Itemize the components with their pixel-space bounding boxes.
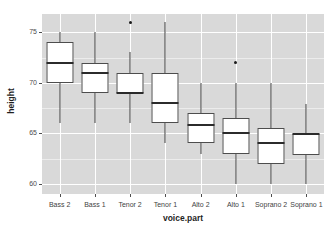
median-line — [222, 132, 249, 134]
x-tick-label: Alto 2 — [192, 200, 210, 209]
x-tick-label: Alto 1 — [227, 200, 245, 209]
x-tick-mark — [130, 194, 131, 197]
x-tick-mark — [306, 194, 307, 197]
x-tick-label: Soprano 1 — [290, 200, 322, 209]
x-tick-label: Bass 1 — [84, 200, 105, 209]
median-line — [46, 62, 73, 64]
x-tick-mark — [271, 194, 272, 197]
box-rect — [152, 73, 179, 124]
box-rect — [258, 128, 285, 163]
y-axis-title: height — [6, 76, 16, 126]
box-rect — [117, 73, 144, 93]
x-tick-mark — [60, 194, 61, 197]
box-rect — [187, 113, 214, 143]
x-tick-mark — [95, 194, 96, 197]
x-tick-label: Soprano 2 — [255, 200, 287, 209]
y-tick-label: 60 — [29, 180, 37, 188]
median-line — [152, 102, 179, 104]
x-tick-label: Tenor 2 — [118, 200, 141, 209]
boxplot-box — [183, 14, 218, 194]
y-tick-label: 65 — [29, 129, 37, 137]
box-rect — [81, 63, 108, 93]
median-line — [81, 72, 108, 74]
x-tick-label: Bass 2 — [49, 200, 70, 209]
outlier-point — [234, 61, 237, 64]
y-tick-mark — [39, 32, 42, 33]
x-axis-title: voice.part — [42, 213, 324, 223]
median-line — [187, 124, 214, 126]
y-tick-mark — [39, 184, 42, 185]
box-rect — [293, 134, 320, 155]
outlier-point — [129, 21, 132, 24]
median-line — [293, 133, 320, 135]
boxplot-box — [148, 14, 183, 194]
y-tick-mark — [39, 133, 42, 134]
median-line — [117, 92, 144, 94]
boxplot-box — [289, 14, 324, 194]
y-tick-mark — [39, 83, 42, 84]
x-tick-mark — [236, 194, 237, 197]
x-tick-mark — [165, 194, 166, 197]
plot-panel — [42, 14, 324, 194]
x-tick-label: Tenor 1 — [154, 200, 177, 209]
boxplot-figure: 60657075 Bass 2Bass 1Tenor 2Tenor 1Alto … — [0, 0, 331, 235]
boxplot-box — [77, 14, 112, 194]
x-tick-mark — [201, 194, 202, 197]
boxplot-box — [113, 14, 148, 194]
box-rect — [222, 118, 249, 153]
median-line — [258, 142, 285, 144]
y-tick-label: 70 — [29, 79, 37, 87]
boxplot-box — [218, 14, 253, 194]
boxplot-box — [254, 14, 289, 194]
boxplot-box — [42, 14, 77, 194]
y-tick-label: 75 — [29, 28, 37, 36]
